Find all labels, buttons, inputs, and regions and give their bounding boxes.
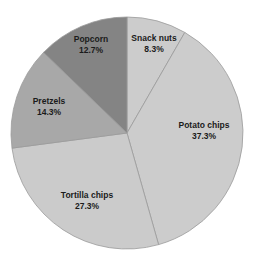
pie-label-popcorn: Popcorn 12.7% bbox=[58, 34, 124, 55]
pie-label-tortilla-chips-name: Tortilla chips bbox=[47, 190, 127, 201]
pie-label-popcorn-percent: 12.7% bbox=[58, 45, 124, 56]
pie-label-pretzels: Pretzels 14.3% bbox=[18, 96, 80, 117]
pie-label-potato-chips-percent: 37.3% bbox=[167, 131, 241, 142]
pie-label-potato-chips-name: Potato chips bbox=[167, 120, 241, 131]
pie-label-tortilla-chips: Tortilla chips 27.3% bbox=[47, 190, 127, 211]
pie-label-pretzels-name: Pretzels bbox=[18, 96, 80, 107]
pie-label-snack-nuts: Snack nuts 8.3% bbox=[122, 33, 186, 54]
pie-label-potato-chips: Potato chips 37.3% bbox=[167, 120, 241, 141]
pie-label-tortilla-chips-percent: 27.3% bbox=[47, 201, 127, 212]
pie-label-popcorn-name: Popcorn bbox=[58, 34, 124, 45]
pie-label-snack-nuts-percent: 8.3% bbox=[122, 44, 186, 55]
pie-label-snack-nuts-name: Snack nuts bbox=[122, 33, 186, 44]
pie-label-pretzels-percent: 14.3% bbox=[18, 107, 80, 118]
pie-chart: Snack nuts 8.3% Potato chips 37.3% Torti… bbox=[0, 0, 259, 263]
